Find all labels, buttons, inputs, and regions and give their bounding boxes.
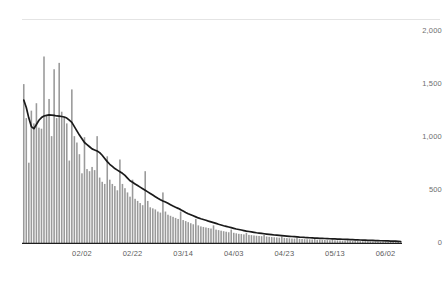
bar: [238, 234, 240, 244]
bar: [114, 186, 116, 243]
bar: [273, 237, 275, 243]
bar: [296, 238, 298, 244]
bar: [225, 232, 227, 244]
bar: [23, 84, 25, 243]
x-tick-label: 05/13: [317, 250, 353, 258]
bar: [144, 171, 146, 243]
bar: [86, 169, 88, 243]
bar: [236, 233, 238, 243]
bar: [230, 230, 232, 244]
bar: [48, 99, 50, 243]
bar: [175, 218, 177, 243]
bar: [258, 236, 260, 243]
bar: [218, 230, 220, 243]
bar: [63, 117, 65, 243]
bar: [261, 236, 263, 243]
bar: [132, 180, 134, 244]
bar: [66, 123, 68, 243]
bar: [91, 167, 93, 243]
bar: [122, 184, 124, 243]
bar: [56, 118, 58, 243]
bar: [246, 233, 248, 244]
bar: [58, 63, 60, 244]
bar-series: [23, 56, 402, 243]
bar: [89, 171, 91, 243]
x-tick-label: 04/03: [216, 250, 252, 258]
bar: [220, 231, 222, 244]
bar: [69, 161, 71, 244]
bar: [33, 123, 35, 243]
bar: [149, 207, 151, 243]
bar: [81, 173, 83, 243]
bar: [301, 239, 303, 243]
bar: [299, 239, 301, 244]
bar: [109, 180, 111, 244]
bar: [79, 154, 81, 243]
bar: [142, 205, 144, 243]
bar: [172, 217, 174, 244]
bar: [203, 227, 205, 243]
bar: [182, 220, 184, 243]
y-tick-label: 0: [438, 239, 442, 247]
moving-average-line: [24, 100, 401, 241]
bar: [263, 235, 265, 244]
bar: [124, 188, 126, 243]
bar: [139, 203, 141, 243]
bar: [291, 239, 293, 244]
y-tick-label: 2,000: [422, 27, 442, 35]
bar: [46, 116, 48, 243]
bar: [266, 237, 268, 244]
bar: [71, 89, 73, 243]
bar: [195, 219, 197, 243]
bar: [190, 223, 192, 243]
bar: [41, 129, 43, 244]
bar: [99, 178, 101, 244]
x-tick-label: 06/02: [368, 250, 404, 258]
bar: [170, 216, 172, 244]
bar: [215, 230, 217, 244]
bar: [200, 226, 202, 243]
bar: [165, 212, 167, 244]
x-tick-label: 03/14: [165, 250, 201, 258]
bar: [155, 209, 157, 243]
bar: [51, 136, 53, 243]
bar: [147, 201, 149, 243]
bar: [243, 234, 245, 243]
bar: [233, 233, 235, 244]
bar: [256, 236, 258, 244]
y-tick-label: 1,500: [422, 80, 442, 88]
bar: [279, 238, 281, 244]
x-tick-label: 02/22: [115, 250, 151, 258]
bar: [276, 237, 278, 243]
bar: [271, 237, 273, 243]
bar: [253, 235, 255, 243]
bar: [94, 170, 96, 243]
bar: [167, 215, 169, 244]
bar: [185, 221, 187, 243]
bar: [61, 112, 63, 244]
bar: [314, 239, 316, 244]
bar: [53, 69, 55, 243]
bar: [205, 227, 207, 243]
bar: [152, 208, 154, 243]
bar: [228, 232, 230, 243]
bar: [180, 212, 182, 244]
bar: [127, 192, 129, 243]
bar: [74, 136, 76, 243]
y-tick-label: 1,000: [422, 133, 442, 141]
bar: [251, 235, 253, 243]
bar: [26, 118, 28, 243]
bar: [289, 238, 291, 243]
bar: [248, 235, 250, 244]
bar: [43, 56, 45, 243]
bar: [223, 231, 225, 243]
bar: [268, 237, 270, 244]
bar: [284, 238, 286, 244]
bar: [294, 239, 296, 244]
bar: [286, 238, 288, 243]
chart-container: 05001,0001,5002,000 02/0202/2203/1404/03…: [0, 0, 448, 292]
bar: [157, 212, 159, 244]
bar: [117, 190, 119, 243]
bar: [241, 234, 243, 243]
y-tick-label: 500: [429, 186, 442, 194]
